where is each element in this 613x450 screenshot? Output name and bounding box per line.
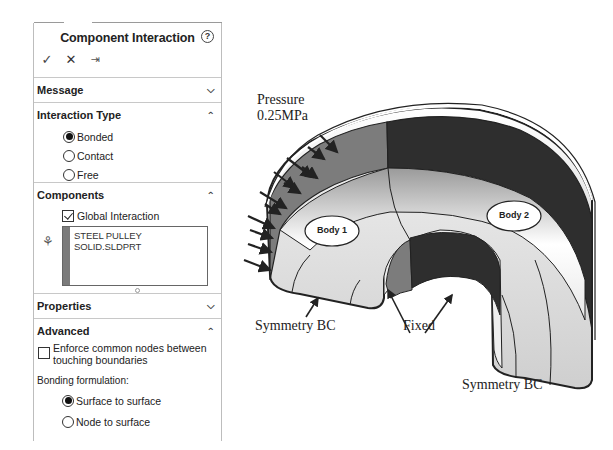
help-icon[interactable]: ? xyxy=(201,30,214,43)
section-title: Advanced xyxy=(37,325,90,337)
enforce-common-nodes-checkbox[interactable]: Enforce common nodes between touching bo… xyxy=(34,342,221,366)
message-section-header[interactable]: Message ⌵ xyxy=(34,78,221,102)
radio-button[interactable] xyxy=(63,169,75,181)
radio-node-to-surface[interactable]: Node to surface xyxy=(62,411,221,432)
pulley-model-figure: Body 1 Body 2 Pressure 0.25MPa Symmetry … xyxy=(240,80,613,400)
radio-label: Node to surface xyxy=(76,416,150,428)
global-interaction-checkbox[interactable]: Global Interaction xyxy=(34,207,221,224)
chevron-down-icon[interactable]: ⌵ xyxy=(207,300,215,312)
radio-surface-to-surface[interactable]: Surface to surface xyxy=(62,390,221,411)
radio-bonded[interactable]: Bonded xyxy=(63,127,221,146)
radio-label: Free xyxy=(77,169,99,181)
advanced-section: Advanced ⌃ Enforce common nodes between … xyxy=(34,318,221,432)
body2-label: Body 2 xyxy=(487,210,541,220)
panel-title: Component Interaction xyxy=(34,31,221,45)
chevron-down-icon[interactable]: ⌵ xyxy=(207,84,215,96)
chevron-up-icon[interactable]: ⌃ xyxy=(207,110,215,121)
checkbox-label: Enforce common nodes between touching bo… xyxy=(53,342,207,366)
section-title: Interaction Type xyxy=(37,109,121,121)
radio-label: Contact xyxy=(77,150,113,162)
body1-label: Body 1 xyxy=(305,225,359,235)
ok-button[interactable]: ✓ xyxy=(40,52,54,67)
chevron-up-icon[interactable]: ⌃ xyxy=(207,326,215,337)
interaction-type-section: Interaction Type ⌃ Bonded Contact Free xyxy=(34,102,221,182)
radio-label: Bonded xyxy=(77,131,113,143)
radio-contact[interactable]: Contact xyxy=(63,146,221,165)
components-section: Components ⌃ Global Interaction ⚘ STEEL … xyxy=(34,182,221,293)
checkbox-label: Global Interaction xyxy=(77,210,159,222)
components-selection-area: ⚘ STEEL PULLEY SOLID.SLDPRT xyxy=(34,226,221,296)
component-interaction-panel: Component Interaction ? ✓ ✕ ⇥ Message ⌵ … xyxy=(33,23,222,441)
pin-button[interactable]: ⇥ xyxy=(88,53,102,66)
chevron-up-icon[interactable]: ⌃ xyxy=(207,190,215,201)
advanced-header[interactable]: Advanced ⌃ xyxy=(34,319,221,343)
pulley-model-graphic xyxy=(240,80,613,400)
radio-button[interactable] xyxy=(62,395,74,407)
section-title: Properties xyxy=(37,300,91,312)
properties-header[interactable]: Properties ⌵ xyxy=(34,294,221,318)
message-section: Message ⌵ xyxy=(34,77,221,102)
interaction-type-header[interactable]: Interaction Type ⌃ xyxy=(34,103,221,127)
cancel-button[interactable]: ✕ xyxy=(64,52,78,67)
properties-section: Properties ⌵ xyxy=(34,293,221,318)
checkbox[interactable] xyxy=(62,210,74,222)
symmetry-bc-right-annotation: Symmetry BC xyxy=(462,377,543,393)
bonding-formulation-label: Bonding formulation: xyxy=(34,370,221,390)
components-listbox[interactable]: STEEL PULLEY SOLID.SLDPRT xyxy=(62,226,208,286)
section-title: Message xyxy=(37,84,83,96)
symmetry-bc-left-annotation: Symmetry BC xyxy=(255,318,336,334)
panel-header: Component Interaction ? ✓ ✕ ⇥ xyxy=(34,23,221,77)
radio-label: Surface to surface xyxy=(76,395,161,407)
component-color-swatch xyxy=(63,227,70,285)
list-item[interactable]: STEEL PULLEY SOLID.SLDPRT xyxy=(70,227,207,285)
section-title: Components xyxy=(37,189,104,201)
pressure-annotation: Pressure 0.25MPa xyxy=(257,92,308,124)
panel-toolbar: ✓ ✕ ⇥ xyxy=(40,52,102,67)
radio-button[interactable] xyxy=(63,131,75,143)
component-icon: ⚘ xyxy=(42,234,54,249)
radio-button[interactable] xyxy=(62,416,74,428)
fixed-annotation: Fixed xyxy=(403,318,435,334)
components-header[interactable]: Components ⌃ xyxy=(34,183,221,207)
checkbox[interactable] xyxy=(38,347,50,359)
radio-button[interactable] xyxy=(63,150,75,162)
